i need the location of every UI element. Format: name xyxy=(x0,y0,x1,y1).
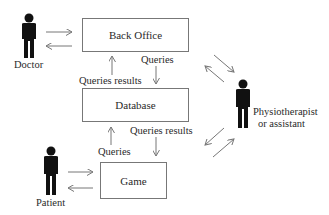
edge-label-db-to-bo: Queries results xyxy=(79,76,142,87)
game-box: Game xyxy=(100,162,167,199)
edge-label-db-to-game: Queries results xyxy=(130,126,193,137)
doctor-label: Doctor xyxy=(14,60,43,71)
database-box: Database xyxy=(82,88,189,122)
edge-label-game-to-db: Queries xyxy=(98,147,131,158)
game-label: Game xyxy=(120,175,146,187)
physio-label-line1: Physiotherapist xyxy=(253,107,318,118)
patient-figure-icon xyxy=(42,146,60,196)
arrow-physio-to-database xyxy=(205,128,224,145)
back-office-label: Back Office xyxy=(109,29,162,41)
arrow-physio-to-backoffice xyxy=(205,66,224,82)
arrow-database-to-physio xyxy=(213,139,234,157)
doctor-figure-icon xyxy=(20,13,38,59)
physio-figure-icon xyxy=(234,79,252,129)
database-label: Database xyxy=(115,99,155,111)
arrow-backoffice-to-physio xyxy=(214,55,234,72)
edge-label-bo-to-db: Queries xyxy=(141,55,174,66)
patient-label: Patient xyxy=(36,198,65,209)
physio-label-line2: or assistant xyxy=(258,119,305,130)
back-office-box: Back Office xyxy=(82,18,189,52)
